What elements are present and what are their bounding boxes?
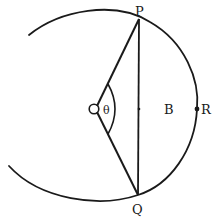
label-theta: θ [103, 104, 110, 117]
chord-pq [138, 19, 139, 195]
label-B: B [164, 102, 174, 117]
radius-oq [97, 112, 138, 195]
midpoint-dot [138, 108, 141, 111]
origin-circle-O [89, 104, 99, 114]
radius-op [97, 19, 139, 106]
point-R-dot [195, 107, 200, 112]
label-P: P [135, 4, 144, 19]
label-R: R [201, 102, 212, 117]
geometry-diagram: P Q θ B R [0, 0, 219, 221]
label-Q: Q [132, 202, 143, 217]
